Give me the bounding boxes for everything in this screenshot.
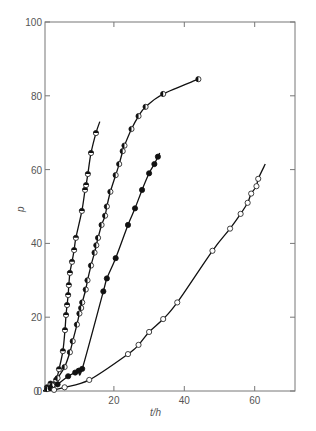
- data-point: [95, 235, 100, 240]
- x-tick-label: 40: [179, 395, 191, 406]
- data-point: [87, 377, 92, 382]
- data-point: [104, 276, 109, 281]
- data-point: [69, 259, 74, 264]
- data-point: [245, 200, 250, 205]
- curve-series-d-open: [44, 164, 266, 391]
- data-point: [56, 367, 61, 372]
- y-tick-label: 60: [31, 165, 43, 176]
- data-point: [66, 374, 71, 379]
- data-point: [175, 300, 180, 305]
- chart: 0204060801000204060 t/h p: [0, 0, 316, 431]
- data-point: [104, 204, 109, 209]
- x-axis-label: t/h: [150, 407, 162, 418]
- data-point: [152, 161, 157, 166]
- data-point: [155, 154, 160, 159]
- data-point: [101, 289, 106, 294]
- data-point: [62, 385, 67, 390]
- data-point: [254, 184, 259, 189]
- y-tick-label: 80: [31, 91, 43, 102]
- data-point: [238, 211, 243, 216]
- data-point: [67, 350, 72, 355]
- data-point: [83, 287, 88, 292]
- data-point: [67, 270, 72, 275]
- data-point: [74, 322, 79, 327]
- y-tick-label: 20: [31, 312, 43, 323]
- data-point: [113, 256, 118, 261]
- data-point: [129, 126, 134, 131]
- data-point: [88, 263, 93, 268]
- data-point: [196, 77, 201, 82]
- data-point: [108, 189, 113, 194]
- data-point: [79, 305, 84, 310]
- data-point: [85, 171, 90, 176]
- x-tick-label: 20: [108, 395, 120, 406]
- data-point: [125, 222, 130, 227]
- data-point: [63, 312, 68, 317]
- data-point: [93, 130, 98, 135]
- data-point: [60, 349, 65, 354]
- data-point: [136, 342, 141, 347]
- data-point: [80, 300, 85, 305]
- data-point: [132, 206, 137, 211]
- data-point: [73, 235, 78, 240]
- data-point: [122, 143, 127, 148]
- data-point: [102, 213, 107, 218]
- data-point: [125, 352, 130, 357]
- x-tick-label: 0: [33, 386, 39, 397]
- data-point: [120, 149, 125, 154]
- data-point: [99, 222, 104, 227]
- data-point: [85, 278, 90, 283]
- data-point: [139, 187, 144, 192]
- data-point: [62, 364, 67, 369]
- data-point: [66, 282, 71, 287]
- axis-ticks: 0204060801000204060: [25, 17, 295, 406]
- data-point: [256, 176, 261, 181]
- y-tick-label: 40: [31, 238, 43, 249]
- data-point: [62, 328, 67, 333]
- data-point: [92, 250, 97, 255]
- data-point: [77, 311, 82, 316]
- y-axis-label: p: [15, 206, 26, 213]
- data-point: [161, 316, 166, 321]
- data-point: [94, 243, 99, 248]
- data-point: [227, 226, 232, 231]
- data-point: [210, 248, 215, 253]
- data-point: [147, 171, 152, 176]
- data-point: [66, 292, 71, 297]
- curve-series-b-left-half-filled: [44, 79, 199, 391]
- data-point: [51, 387, 56, 392]
- data-point: [70, 339, 75, 344]
- data-point: [82, 187, 87, 192]
- data-point: [161, 91, 166, 96]
- data-point: [64, 302, 69, 307]
- data-point: [83, 182, 88, 187]
- data-point: [72, 247, 77, 252]
- y-tick-label: 100: [25, 17, 42, 28]
- data-point: [249, 191, 254, 196]
- x-tick-label: 60: [249, 395, 261, 406]
- data-point: [55, 375, 60, 380]
- data-point: [55, 382, 60, 387]
- data-point: [117, 161, 122, 166]
- data-point: [147, 329, 152, 334]
- data-point: [88, 150, 93, 155]
- data-point: [136, 113, 141, 118]
- data-point: [113, 173, 118, 178]
- data-point: [80, 366, 85, 371]
- data-point: [143, 104, 148, 109]
- data-point: [79, 208, 84, 213]
